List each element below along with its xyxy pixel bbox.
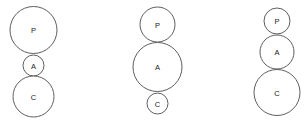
- node-label: C: [274, 89, 280, 98]
- node-label: A: [274, 48, 279, 57]
- node-c-group-2[interactable]: C: [147, 93, 168, 114]
- node-label: C: [155, 100, 161, 109]
- node-label: P: [155, 21, 160, 30]
- diagram-canvas: PACPACPAC: [0, 0, 304, 129]
- node-p-group-3[interactable]: P: [264, 8, 290, 34]
- node-label: C: [31, 93, 37, 102]
- node-a-group-2[interactable]: A: [133, 43, 182, 92]
- circle-stack-1: PAC: [10, 7, 57, 118]
- node-p-group-2[interactable]: P: [140, 7, 175, 42]
- node-c-group-3[interactable]: C: [254, 70, 300, 116]
- node-label: P: [274, 17, 279, 26]
- circle-stack-diagram: PACPACPAC: [0, 0, 304, 129]
- node-label: A: [155, 63, 160, 72]
- node-c-group-1[interactable]: C: [13, 76, 54, 117]
- circle-stack-2: PAC: [133, 7, 182, 114]
- node-label: P: [31, 26, 36, 35]
- node-label: A: [31, 62, 36, 71]
- node-a-group-3[interactable]: A: [260, 35, 294, 69]
- node-a-group-1[interactable]: A: [23, 55, 44, 76]
- circle-stack-3: PAC: [254, 8, 300, 116]
- node-p-group-1[interactable]: P: [10, 7, 57, 54]
